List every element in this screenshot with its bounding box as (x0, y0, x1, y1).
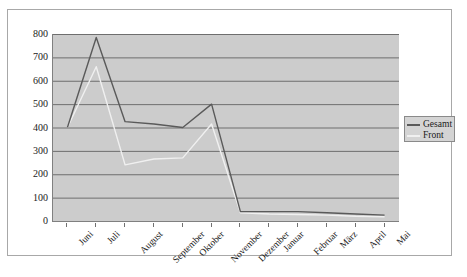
x-axis-tick (384, 223, 385, 227)
x-axis-tick (124, 223, 125, 227)
y-axis-tick-label: 300 (14, 146, 48, 156)
y-axis: 0100200300400500600700800 (12, 10, 48, 257)
x-axis-tick-label: April (367, 229, 388, 250)
y-axis-tick-label: 500 (14, 99, 48, 109)
chart-legend: GesamtFront (404, 116, 455, 142)
x-axis-tick-label: August (138, 229, 164, 255)
x-axis-tick-label: Juli (105, 229, 122, 246)
plot-area (52, 34, 399, 222)
legend-swatch-gesamt (407, 124, 420, 126)
x-axis-tick (268, 223, 269, 227)
x-axis-tick (95, 223, 96, 227)
x-axis-tick-label: Mai (394, 229, 412, 247)
legend-swatch-front (407, 135, 420, 137)
plot-svg (53, 34, 399, 221)
y-axis-tick-label: 0 (14, 216, 48, 226)
y-axis-tick-label: 100 (14, 193, 48, 203)
y-axis-tick-label: 400 (14, 123, 48, 133)
legend-label: Gesamt (423, 119, 452, 130)
series-line-front (67, 67, 384, 217)
x-axis-tick (355, 223, 356, 227)
y-axis-tick-label: 200 (14, 169, 48, 179)
x-axis-tick (182, 223, 183, 227)
x-axis-tick (326, 223, 327, 227)
x-axis-tick-label: März (338, 229, 359, 250)
x-axis-tick (153, 223, 154, 227)
legend-label: Front (423, 130, 444, 141)
x-axis-tick (297, 223, 298, 227)
legend-item[interactable]: Front (405, 130, 454, 141)
y-axis-tick-label: 600 (14, 76, 48, 86)
screenshot-root: 0100200300400500600700800 JuniJuliAugust… (0, 0, 467, 277)
series-line-gesamt (67, 38, 384, 216)
x-axis-tick (211, 223, 212, 227)
x-axis: JuniJuliAugustSeptemberOktoberNovemberDe… (52, 223, 398, 267)
chart-frame: 0100200300400500600700800 JuniJuliAugust… (7, 9, 452, 256)
y-axis-tick-label: 800 (14, 29, 48, 39)
x-axis-tick-label: Februar (312, 229, 340, 257)
y-axis-tick-label: 700 (14, 52, 48, 62)
x-axis-tick (66, 223, 67, 227)
legend-item[interactable]: Gesamt (405, 119, 454, 130)
x-axis-tick (239, 223, 240, 227)
x-axis-tick-label: Juni (77, 229, 95, 247)
